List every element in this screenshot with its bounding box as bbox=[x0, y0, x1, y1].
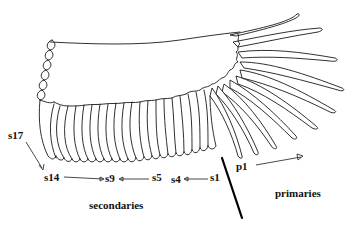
primary-feathers bbox=[210, 14, 344, 158]
label-s9: s9 bbox=[105, 173, 115, 184]
label-s17: s17 bbox=[8, 130, 23, 141]
label-s1: s1 bbox=[210, 172, 220, 183]
label-secondaries: secondaries bbox=[89, 200, 143, 211]
label-s4: s4 bbox=[171, 174, 181, 185]
wing-drawing bbox=[0, 0, 355, 235]
wing-diagram: s17 s14 s9 s5 s4 s1 p1 secondaries prima… bbox=[0, 0, 355, 235]
label-s5: s5 bbox=[152, 172, 162, 183]
label-primaries: primaries bbox=[275, 188, 321, 199]
label-s14: s14 bbox=[44, 172, 59, 183]
tertial-coverts bbox=[37, 40, 55, 103]
secondary-feathers bbox=[39, 90, 216, 162]
label-p1: p1 bbox=[236, 161, 248, 172]
